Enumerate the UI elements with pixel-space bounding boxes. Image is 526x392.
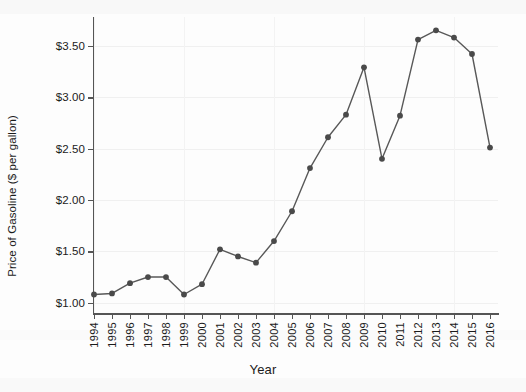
data-point [127, 280, 133, 286]
x-tick-label: 2000 [196, 322, 208, 348]
scan-artifact-top [0, 0, 526, 14]
gasoline-price-chart: Price of Gasoline ($ per gallon) Year $1… [0, 0, 526, 392]
data-point [181, 292, 187, 298]
x-tick-label: 1994 [88, 322, 100, 348]
x-tick-mark [148, 313, 149, 319]
x-tick-label: 2011 [394, 322, 406, 347]
x-tick-mark [256, 313, 257, 319]
data-point [91, 292, 97, 298]
x-tick-mark [436, 313, 437, 319]
data-series-line [94, 17, 508, 323]
x-tick-label: 1999 [178, 322, 190, 348]
x-tick-label: 2006 [304, 322, 316, 348]
data-point [199, 281, 205, 287]
y-tick-label: $1.50 [56, 245, 85, 257]
x-tick-label: 2012 [412, 322, 424, 348]
x-tick-mark [94, 313, 95, 319]
x-tick-mark [238, 313, 239, 319]
x-tick-mark [346, 313, 347, 319]
x-tick-label: 2003 [250, 322, 262, 348]
y-tick-label: $1.00 [56, 297, 85, 309]
data-point [109, 291, 115, 297]
x-tick-label: 2014 [448, 322, 460, 348]
series-polyline [94, 30, 490, 294]
x-tick-mark [130, 313, 131, 319]
x-tick-mark [454, 313, 455, 319]
data-point [253, 260, 259, 266]
data-point [307, 165, 313, 171]
data-point [487, 145, 493, 151]
data-point [451, 35, 457, 41]
x-tick-mark [328, 313, 329, 319]
x-tick-label: 2009 [358, 322, 370, 348]
x-tick-label: 1996 [124, 322, 136, 348]
y-tick-label: $2.00 [56, 194, 85, 206]
x-tick-label: 2016 [484, 322, 496, 348]
x-tick-label: 2002 [232, 322, 244, 348]
x-tick-label: 1995 [106, 322, 118, 348]
x-tick-mark [364, 313, 365, 319]
data-point [289, 208, 295, 214]
x-tick-mark [112, 313, 113, 319]
y-tick-label: $3.50 [56, 40, 85, 52]
data-point [415, 37, 421, 43]
x-tick-mark [418, 313, 419, 319]
x-tick-label: 2015 [466, 322, 478, 348]
data-point [469, 51, 475, 57]
x-tick-mark [202, 313, 203, 319]
x-tick-mark [184, 313, 185, 319]
x-tick-mark [274, 313, 275, 319]
x-tick-mark [166, 313, 167, 319]
x-tick-mark [472, 313, 473, 319]
data-point [343, 112, 349, 118]
data-point [235, 254, 241, 260]
x-tick-label: 1997 [142, 322, 154, 348]
data-point [325, 134, 331, 140]
scan-artifact-bottom [0, 378, 526, 392]
x-tick-label: 2013 [430, 322, 442, 348]
x-tick-mark [292, 313, 293, 319]
x-axis-title: Year [0, 362, 526, 377]
data-point [217, 246, 223, 252]
x-tick-label: 2007 [322, 322, 334, 348]
x-tick-mark [400, 313, 401, 319]
x-tick-label: 2005 [286, 322, 298, 348]
data-point [271, 238, 277, 244]
x-tick-mark [490, 313, 491, 319]
y-tick-label: $2.50 [56, 143, 85, 155]
data-point [145, 274, 151, 280]
data-point [397, 113, 403, 119]
x-tick-label: 2001 [214, 322, 226, 348]
x-tick-label: 2004 [268, 322, 280, 348]
y-axis-title: Price of Gasoline ($ per gallon) [6, 115, 18, 277]
x-tick-label: 2010 [376, 322, 388, 348]
data-point [361, 64, 367, 70]
data-point [163, 274, 169, 280]
x-tick-mark [220, 313, 221, 319]
x-tick-label: 2008 [340, 322, 352, 348]
y-tick-label: $3.00 [56, 91, 85, 103]
x-tick-label: 1998 [160, 322, 172, 348]
plot-area: $1.00$1.50$2.00$2.50$3.00$3.50 [94, 17, 498, 313]
data-point [379, 156, 385, 162]
data-point [433, 27, 439, 33]
x-tick-mark [382, 313, 383, 319]
x-tick-mark [310, 313, 311, 319]
